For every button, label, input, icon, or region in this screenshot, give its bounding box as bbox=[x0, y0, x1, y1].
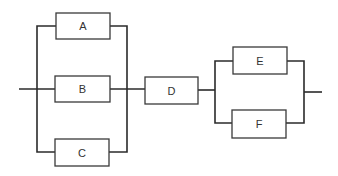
block-f: F bbox=[232, 110, 286, 138]
block-b-label: B bbox=[79, 83, 86, 95]
block-f-label: F bbox=[256, 118, 263, 130]
ef-left-rail bbox=[215, 61, 233, 123]
block-a: A bbox=[56, 13, 110, 39]
block-d-label: D bbox=[168, 85, 176, 97]
block-a-label: A bbox=[79, 20, 87, 32]
block-c-label: C bbox=[78, 147, 86, 159]
reliability-block-diagram: A B C D E F bbox=[0, 0, 338, 176]
block-d: D bbox=[145, 77, 198, 104]
ef-right-rail bbox=[286, 61, 304, 123]
block-b: B bbox=[55, 76, 110, 102]
block-c: C bbox=[55, 139, 109, 166]
block-e: E bbox=[233, 47, 287, 74]
block-e-label: E bbox=[256, 55, 263, 67]
